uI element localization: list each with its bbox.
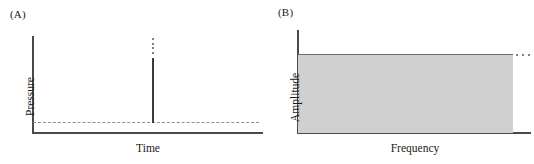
panel-a-label: (A) (10, 8, 26, 20)
panel-a-y-axis-title: Pressure (24, 77, 36, 116)
panel-a-impulse-spike (152, 58, 154, 123)
panel-a: (A) Pressure Time (0, 0, 267, 164)
panel-b-y-axis-title: Amplitude (289, 73, 301, 122)
panel-a-x-axis-title: Time (98, 142, 198, 154)
panel-b-spectrum-block (298, 54, 513, 133)
figure-canvas: (A) Pressure Time (B) Amplitude Frequenc… (0, 0, 534, 164)
panel-b-x-axis-title: Frequency (355, 142, 475, 154)
panel-a-baseline-dashed (33, 122, 259, 123)
panel-a-vertical-ellipsis-icon (152, 38, 154, 54)
panel-a-x-axis (32, 132, 263, 134)
panel-b: (B) Amplitude Frequency (267, 0, 534, 164)
panel-b-horizontal-ellipsis-icon (516, 54, 530, 56)
panel-b-label: (B) (278, 6, 293, 18)
